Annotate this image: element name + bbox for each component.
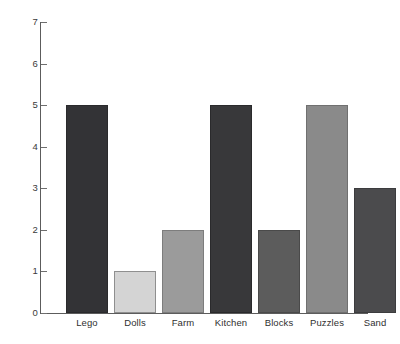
y-axis-tick-mark [41,313,47,314]
x-axis-line [40,313,368,314]
bar-kitchen [210,105,252,313]
y-axis-tick-label: 7 [16,17,38,27]
y-axis-tick-label: 3 [16,183,38,193]
bar-farm [162,230,204,313]
bar-lego [66,105,108,313]
bars-container [40,22,368,313]
y-axis-tick-label: 4 [16,142,38,152]
bar-blocks [258,230,300,313]
y-axis-tick-label: 1 [16,266,38,276]
bar-dolls [114,271,156,313]
y-axis-tick-label: 0 [16,308,38,318]
y-axis-tick-label: 5 [16,100,38,110]
x-axis-label-sand: Sand [342,318,400,328]
y-axis-tick-label: 6 [16,59,38,69]
bar-sand [354,188,396,313]
y-axis-tick-label: 2 [16,225,38,235]
bar-puzzles [306,105,348,313]
